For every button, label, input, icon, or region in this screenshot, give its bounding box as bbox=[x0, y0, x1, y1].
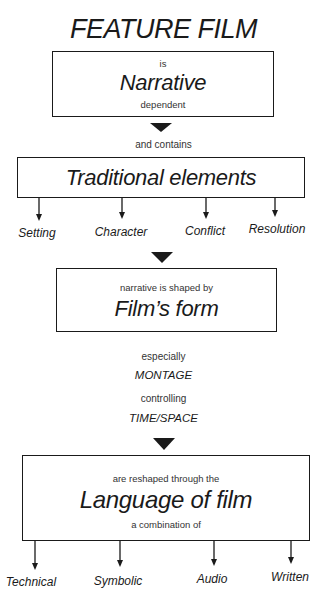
language-symbolic: Symbolic bbox=[94, 574, 143, 588]
triangle-down-icon bbox=[151, 252, 173, 263]
text-time-space: TIME/SPACE bbox=[0, 412, 327, 424]
language-of-film-box: are reshaped through the Language of fil… bbox=[22, 455, 310, 541]
language-audio: Audio bbox=[197, 572, 228, 586]
text-montage: MONTAGE bbox=[0, 369, 327, 381]
language-box-bottom-text: a combination of bbox=[23, 519, 309, 530]
films-form-top-text: narrative is shaped by bbox=[57, 282, 276, 293]
element-setting: Setting bbox=[18, 226, 55, 240]
element-conflict: Conflict bbox=[185, 224, 225, 238]
triangle-down-icon bbox=[153, 438, 175, 450]
text-especially: especially bbox=[0, 351, 327, 362]
films-form-box: narrative is shaped by Film’s form bbox=[56, 268, 277, 332]
films-form-main-text: Film’s form bbox=[57, 296, 276, 322]
text-controlling: controlling bbox=[0, 393, 327, 404]
traditional-elements-main-text: Traditional elements bbox=[18, 165, 304, 191]
element-resolution: Resolution bbox=[249, 222, 306, 236]
element-character: Character bbox=[95, 225, 148, 239]
language-box-top-text: are reshaped through the bbox=[23, 473, 309, 484]
language-technical: Technical bbox=[6, 575, 56, 589]
connector-text-and-contains: and contains bbox=[0, 139, 327, 150]
language-written: Written bbox=[271, 570, 309, 584]
traditional-elements-box: Traditional elements bbox=[17, 157, 305, 198]
language-box-main-text: Language of film bbox=[23, 486, 309, 514]
triangle-down-icon bbox=[150, 123, 172, 132]
